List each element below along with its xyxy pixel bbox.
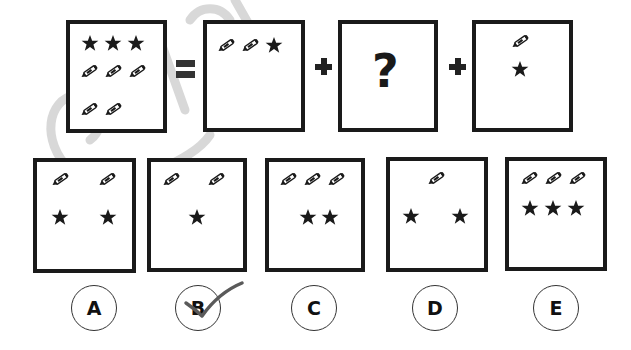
option-b-label[interactable]: B (175, 285, 221, 331)
equation-total-box (66, 20, 167, 133)
pencil-icon (103, 62, 125, 80)
pencil-icon (79, 62, 101, 80)
star-icon (567, 199, 585, 217)
option-a-box[interactable] (33, 158, 136, 273)
equals-sign (176, 60, 195, 78)
pencil-icon (97, 170, 119, 188)
pencil-icon (510, 32, 532, 50)
pencil-icon (240, 36, 262, 54)
star-icon (402, 207, 420, 225)
option-b-box[interactable] (147, 158, 247, 272)
plus-sign (315, 58, 332, 75)
pencil-icon (206, 170, 228, 188)
option-c-label[interactable]: C (291, 285, 337, 331)
pencil-icon (426, 169, 448, 187)
option-d-label[interactable]: D (412, 285, 458, 331)
star-icon (99, 208, 117, 226)
star-icon (265, 36, 283, 54)
star-icon (321, 208, 339, 226)
pencil-icon (127, 62, 149, 80)
star-icon (51, 208, 69, 226)
pencil-icon (543, 169, 565, 187)
unknown-term-box: ? (338, 20, 438, 132)
star-icon (521, 199, 539, 217)
option-d-box[interactable] (386, 157, 488, 272)
pencil-icon (326, 170, 348, 188)
pencil-icon (103, 100, 125, 118)
pencil-icon (50, 170, 72, 188)
option-c-box[interactable] (265, 158, 365, 272)
option-e-box[interactable] (505, 157, 607, 271)
equation-term3-box (472, 20, 573, 132)
equation-term1-box (203, 20, 305, 132)
star-icon (511, 60, 529, 78)
star-icon (451, 207, 469, 225)
pencil-icon (567, 169, 589, 187)
option-a-label[interactable]: A (71, 285, 117, 331)
star-icon (299, 208, 317, 226)
pencil-icon (161, 170, 183, 188)
star-icon (127, 34, 145, 52)
option-e-label[interactable]: E (533, 285, 579, 331)
pencil-icon (278, 170, 300, 188)
pencil-icon (216, 36, 238, 54)
star-icon (81, 34, 99, 52)
pencil-icon (519, 169, 541, 187)
star-icon (544, 199, 562, 217)
question-mark: ? (372, 44, 399, 98)
pencil-icon (79, 100, 101, 118)
star-icon (104, 34, 122, 52)
plus-sign (449, 58, 466, 75)
star-icon (188, 208, 206, 226)
pencil-icon (302, 170, 324, 188)
